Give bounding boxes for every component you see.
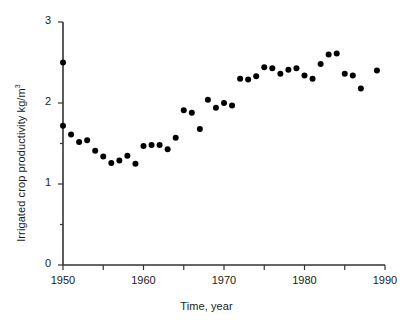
- data-point: [84, 137, 90, 143]
- y-axis-tick-label: 1: [35, 176, 51, 188]
- data-point: [334, 51, 340, 57]
- data-point: [302, 72, 308, 78]
- y-axis-title: Irrigated crop productivity kg/m3: [14, 0, 34, 326]
- y-axis-title-exponent: 3: [14, 84, 21, 88]
- data-point: [245, 77, 251, 83]
- data-point: [310, 76, 316, 82]
- data-point: [181, 107, 187, 113]
- y-axis-tick-label: 2: [35, 95, 51, 107]
- data-point: [237, 76, 243, 82]
- data-point: [374, 68, 380, 74]
- x-axis-tick-label: 1950: [43, 274, 83, 286]
- chart-figure: 0123 19501960197019801990 Time, year Irr…: [0, 0, 413, 326]
- data-point: [108, 160, 114, 166]
- data-point: [269, 65, 275, 71]
- data-points-group: [60, 51, 380, 167]
- data-point: [285, 67, 291, 73]
- data-point: [205, 97, 211, 103]
- y-axis-tick-label: 0: [35, 257, 51, 269]
- data-point: [229, 102, 235, 108]
- x-axis-title: Time, year: [0, 300, 413, 312]
- data-point: [318, 61, 324, 67]
- data-point: [189, 110, 195, 116]
- data-point: [213, 105, 219, 111]
- data-point: [261, 64, 267, 70]
- x-axis-tick-label: 1970: [204, 274, 244, 286]
- data-point: [132, 161, 138, 167]
- data-point: [350, 72, 356, 78]
- x-axis-tick-label: 1960: [124, 274, 164, 286]
- data-point: [197, 126, 203, 132]
- data-point: [342, 71, 348, 77]
- data-point: [173, 135, 179, 141]
- data-point: [141, 143, 147, 149]
- data-point: [92, 148, 98, 154]
- data-point: [358, 85, 364, 91]
- data-point: [293, 65, 299, 71]
- x-axis-tick-label: 1980: [285, 274, 325, 286]
- data-point: [326, 51, 332, 57]
- data-point: [116, 158, 122, 164]
- data-point: [149, 142, 155, 148]
- data-point: [100, 153, 106, 159]
- x-axis-tick-label: 1990: [365, 274, 405, 286]
- data-point: [221, 100, 227, 106]
- axes-group: [58, 22, 385, 270]
- data-point: [157, 142, 163, 148]
- data-point: [253, 73, 259, 79]
- data-point: [68, 132, 74, 138]
- data-point: [124, 153, 130, 159]
- data-point: [60, 123, 66, 129]
- data-point: [60, 60, 66, 66]
- y-axis-title-base: Irrigated crop productivity kg/m: [15, 88, 27, 242]
- data-point: [277, 71, 283, 77]
- data-point: [165, 146, 171, 152]
- y-axis-tick-label: 3: [35, 14, 51, 26]
- data-point: [76, 139, 82, 145]
